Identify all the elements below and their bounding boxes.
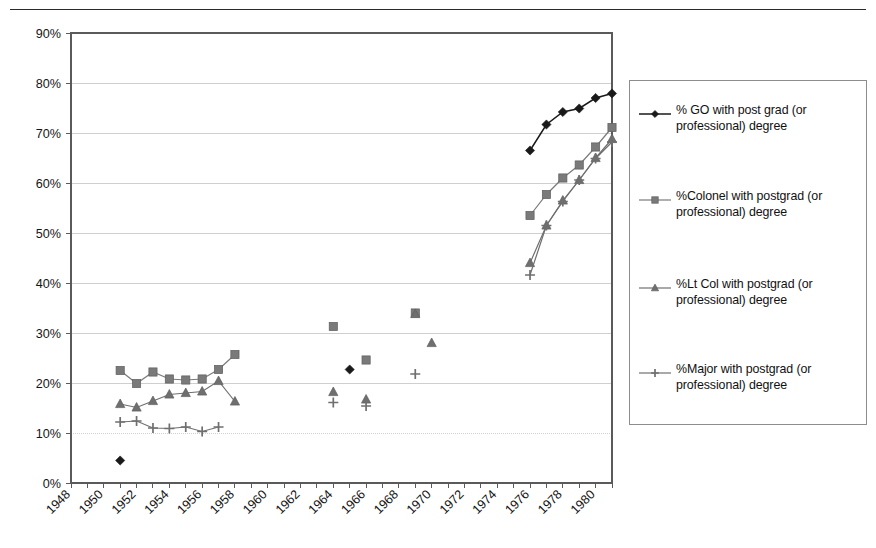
x-tick-label: 1964 xyxy=(306,487,336,517)
data-point-square xyxy=(362,356,370,364)
data-point-square xyxy=(165,375,173,383)
data-point-diamond xyxy=(345,365,354,374)
legend-key-square-icon xyxy=(638,193,672,207)
x-tick-label: 1948 xyxy=(43,487,73,517)
top-horizontal-rule xyxy=(10,9,866,10)
x-axis-ticks-group: 1948195019521954195619581960196219641966… xyxy=(43,483,612,517)
data-point-square xyxy=(592,143,600,151)
data-point-plus xyxy=(214,422,224,432)
x-tick-label: 1954 xyxy=(142,487,172,517)
data-point-diamond xyxy=(591,93,600,102)
data-point-plus xyxy=(197,427,207,437)
x-tick-label: 1978 xyxy=(535,487,565,517)
series-line xyxy=(530,128,612,216)
data-point-diamond xyxy=(575,104,584,113)
data-point-square xyxy=(526,211,534,219)
x-tick-label: 1962 xyxy=(273,487,303,517)
x-tick-label: 1950 xyxy=(76,487,106,517)
x-tick-label: 1960 xyxy=(240,487,270,517)
x-tick-label: 1958 xyxy=(207,487,237,517)
data-point-square xyxy=(132,379,140,387)
series-1 xyxy=(116,123,616,387)
y-tick-label: 50% xyxy=(36,227,61,241)
legend-label-go: % GO with post grad (or professional) de… xyxy=(676,103,864,134)
legend-key-diamond-icon xyxy=(638,107,672,121)
x-tick-label: 1968 xyxy=(371,487,401,517)
data-point-plus xyxy=(410,369,420,379)
page-root: 0%10%20%30%40%50%60%70%80%90% 1948195019… xyxy=(0,0,876,548)
data-point-triangle xyxy=(198,387,207,396)
data-point-diamond xyxy=(607,89,616,98)
data-point-diamond xyxy=(116,456,125,465)
x-tick-label: 1972 xyxy=(437,487,467,517)
x-tick-label: 1974 xyxy=(470,487,500,517)
data-point-square xyxy=(116,366,124,374)
y-tick-label: 20% xyxy=(36,377,61,391)
legend-label-ltcol: %Lt Col with postgrad (or professional) … xyxy=(676,277,864,308)
data-point-plus xyxy=(164,424,174,434)
legend-key-triangle-icon xyxy=(638,281,672,295)
series-3 xyxy=(115,137,617,437)
data-point-plus xyxy=(328,398,338,408)
x-tick-label: 1952 xyxy=(109,487,139,517)
data-point-square xyxy=(231,350,239,358)
y-tick-label: 70% xyxy=(36,127,61,141)
x-tick-label: 1970 xyxy=(404,487,434,517)
x-tick-label: 1980 xyxy=(568,487,598,517)
data-point-triangle xyxy=(214,376,223,385)
gridlines-group xyxy=(71,83,612,433)
legend-label-colonel: %Colonel with postgrad (or professional)… xyxy=(676,189,864,220)
y-tick-label: 90% xyxy=(36,27,61,41)
data-point-plus xyxy=(651,369,659,377)
data-point-square xyxy=(198,375,206,383)
data-point-square xyxy=(149,368,157,376)
y-tick-label: 40% xyxy=(36,277,61,291)
data-point-triangle xyxy=(116,399,125,408)
x-tick-label: 1956 xyxy=(175,487,205,517)
legend-key-plus-icon xyxy=(638,366,672,380)
legend-label-major: %Major with postgrad (or professional) d… xyxy=(676,362,864,393)
data-point-square xyxy=(214,365,222,373)
data-series-group xyxy=(115,89,617,465)
data-point-square xyxy=(182,376,190,384)
data-point-plus xyxy=(181,422,191,432)
data-point-square xyxy=(608,123,616,131)
y-tick-label: 10% xyxy=(36,427,61,441)
data-point-square xyxy=(652,197,658,203)
data-point-triangle xyxy=(427,338,436,347)
series-2 xyxy=(116,134,617,411)
y-tick-label: 60% xyxy=(36,177,61,191)
data-point-square xyxy=(575,161,583,169)
x-tick-label: 1966 xyxy=(338,487,368,517)
data-point-plus xyxy=(148,423,158,433)
y-tick-label: 0% xyxy=(43,477,61,491)
y-tick-label: 80% xyxy=(36,77,61,91)
data-point-plus xyxy=(115,417,125,427)
data-point-square xyxy=(329,322,337,330)
axes-group xyxy=(71,33,612,483)
data-point-square xyxy=(542,190,550,198)
series-line xyxy=(530,139,612,263)
y-axis-ticks-group: 0%10%20%30%40%50%60%70%80%90% xyxy=(36,27,71,491)
data-point-diamond xyxy=(525,146,534,155)
data-point-square xyxy=(559,174,567,182)
data-point-triangle xyxy=(329,387,338,396)
data-point-diamond xyxy=(651,110,658,117)
y-tick-label: 30% xyxy=(36,327,61,341)
data-point-plus xyxy=(132,416,142,426)
x-tick-label: 1976 xyxy=(502,487,532,517)
data-point-plus xyxy=(525,270,535,280)
chart-legend: % GO with post grad (or professional) de… xyxy=(629,80,867,425)
plot-border xyxy=(71,33,612,483)
